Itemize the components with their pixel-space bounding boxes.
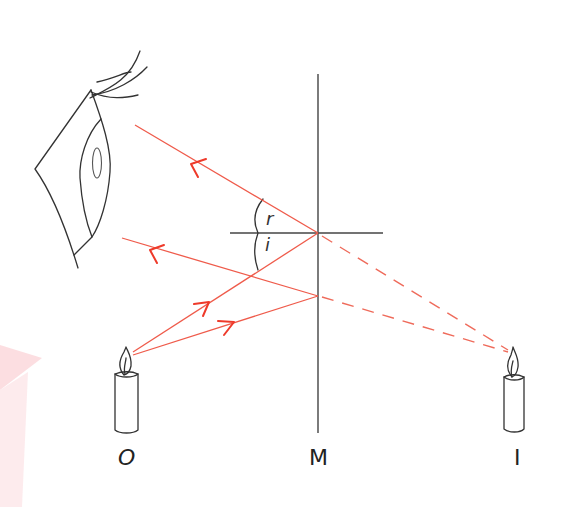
incident-ray-2 bbox=[133, 296, 318, 355]
arrowhead-reflected-2 bbox=[150, 245, 164, 263]
image-candle-icon bbox=[504, 347, 524, 432]
mirror-label: M bbox=[309, 445, 328, 470]
watermark-shape bbox=[0, 345, 42, 507]
virtual-ray-2 bbox=[322, 297, 508, 352]
reflected-ray-2 bbox=[122, 238, 318, 296]
reflected-ray-1 bbox=[135, 125, 318, 233]
virtual-ray-1 bbox=[322, 236, 508, 350]
eye-icon bbox=[35, 51, 147, 268]
angle-arc bbox=[255, 199, 263, 270]
mirror-reflection-diagram: r i O M I bbox=[0, 0, 562, 507]
object-candle-icon bbox=[115, 347, 138, 433]
image-label: I bbox=[514, 445, 521, 470]
angle-r-label: r bbox=[266, 208, 275, 229]
angle-i-label: i bbox=[265, 234, 270, 255]
arrowhead-reflected-1 bbox=[191, 159, 206, 177]
object-label: O bbox=[118, 445, 135, 470]
